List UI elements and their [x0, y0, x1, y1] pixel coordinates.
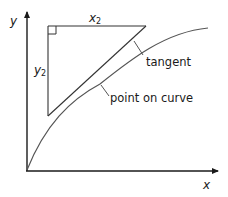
point-on-curve-label: point on curve [110, 91, 193, 105]
point-leader-line [101, 85, 109, 96]
y2-subscript: 2 [41, 69, 46, 78]
tangent-leader-line [134, 41, 143, 55]
x-axis-label: x [202, 178, 211, 192]
triangle-x-label: x2 [88, 11, 101, 26]
y-axis-label: y [9, 14, 18, 28]
right-angle-marker [48, 26, 56, 34]
triangle-y-label: y2 [33, 63, 46, 78]
tangent-label: tangent [146, 55, 192, 69]
x2-subscript: 2 [96, 17, 101, 26]
tangent-diagram: y x x2 y2 tangent point on curve [0, 0, 228, 197]
